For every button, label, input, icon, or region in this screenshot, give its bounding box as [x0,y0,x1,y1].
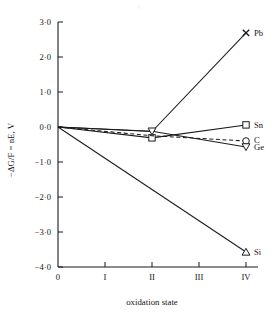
x-tick-label: II [149,272,155,282]
x-tick-label: I [104,272,107,282]
y-tick-label: 2·0 [40,52,51,62]
series-label-Ge: Ge [254,142,264,152]
y-tick-label: −3·0 [35,227,51,237]
top-artifact-mark: | [138,4,139,9]
x-axis-title: oxidation state [126,297,178,307]
series-label-Si: Si [254,247,262,257]
y-axis-title: −ΔG/F = nE, V [6,122,16,177]
series-label-Sn: Sn [254,120,264,130]
x-tick-label: III [195,272,204,282]
y-tick-label: 3·0 [40,17,51,27]
y-tick-label: 0·0 [40,122,51,132]
x-tick-label: IV [241,272,251,282]
series-label-Pb: Pb [254,28,263,38]
y-tick-label: −2·0 [35,192,51,202]
frank-condon-oxidation-state-chart: | 3·02·01·00·0−1·0−2·0−3·0−4·0 0IIIIIIIV… [0,0,278,314]
x-tick-label: 0 [56,272,60,282]
y-tick-label: −1·0 [35,157,51,167]
data-point-marker-square [243,122,249,128]
y-tick-label: −4·0 [35,262,51,272]
chart-svg: | 3·02·01·00·0−1·0−2·0−3·0−4·0 0IIIIIIIV… [0,0,278,314]
y-tick-label: 1·0 [40,87,51,97]
